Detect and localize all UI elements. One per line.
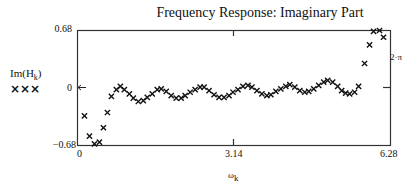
data-point-x-marker [316, 83, 321, 88]
data-point-x-marker [259, 91, 264, 96]
data-point-x-marker [109, 94, 114, 99]
data-point-x-marker [97, 140, 102, 145]
data-point-x-marker [235, 87, 240, 92]
data-point-x-marker [150, 91, 155, 96]
data-point-x-marker [356, 84, 361, 89]
data-point-x-marker [136, 99, 141, 104]
data-point-x-marker [159, 86, 164, 91]
data-point-x-marker [311, 86, 316, 91]
data-point-x-marker [278, 86, 283, 91]
data-point-x-marker [362, 61, 367, 66]
data-point-x-marker [240, 84, 245, 89]
data-point-x-marker [211, 92, 216, 97]
data-point-x-marker [230, 90, 235, 95]
left-zero-arrow-icon [78, 85, 86, 90]
data-point-x-marker [164, 89, 169, 94]
data-point-x-marker [193, 87, 198, 92]
plot-area [0, 0, 413, 189]
data-point-x-marker [101, 125, 106, 130]
data-point-x-marker [145, 95, 150, 100]
data-point-x-marker [221, 95, 226, 100]
data-point-x-marker [169, 93, 174, 98]
data-point-x-marker [206, 88, 211, 93]
data-point-x-marker [306, 89, 311, 94]
data-markers [82, 28, 386, 147]
data-point-x-marker [292, 85, 297, 90]
data-point-x-marker [381, 35, 386, 40]
data-point-x-marker [201, 85, 206, 90]
data-point-x-marker [347, 91, 352, 96]
data-point-x-marker [87, 134, 92, 139]
data-point-x-marker [268, 92, 273, 97]
data-point-x-marker [82, 113, 87, 118]
data-point-x-marker [352, 90, 357, 95]
data-point-x-marker [273, 89, 278, 94]
data-point-x-marker [371, 29, 376, 34]
data-point-x-marker [105, 110, 110, 115]
data-point-x-marker [330, 79, 335, 84]
data-point-x-marker [297, 88, 302, 93]
data-point-x-marker [131, 96, 136, 101]
data-point-x-marker [254, 88, 259, 93]
data-point-x-marker [367, 42, 372, 47]
data-point-x-marker [216, 95, 221, 100]
data-point-x-marker [174, 96, 179, 101]
data-point-x-marker [122, 87, 127, 92]
data-point-x-marker [188, 90, 193, 95]
